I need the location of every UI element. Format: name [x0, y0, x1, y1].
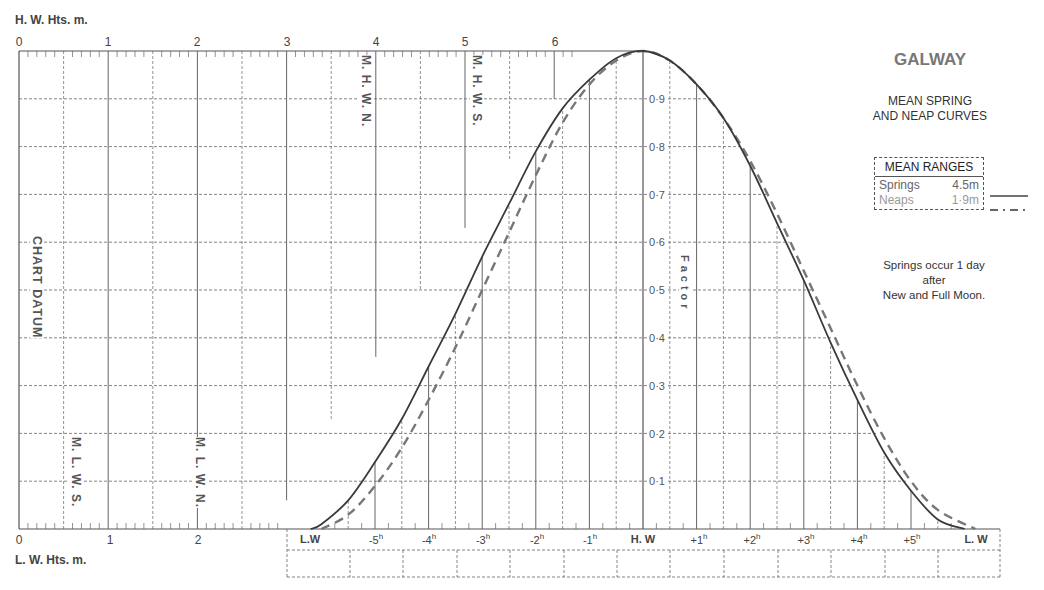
- time-label-lw-start: L.W: [300, 533, 320, 545]
- springs-note: Springs occur 1 day after New and Full M…: [849, 258, 1019, 303]
- factor-tick: 0·2: [648, 428, 666, 440]
- factor-tick: 0·5: [648, 284, 666, 296]
- mhws-label: M. H. W. S.: [470, 55, 484, 127]
- legend-line-samples: [988, 188, 1034, 218]
- time-label: +2h: [744, 532, 761, 546]
- time-label: -1h: [583, 532, 597, 546]
- legend-title: MEAN RANGES: [875, 158, 983, 177]
- time-label: +3h: [798, 532, 815, 546]
- factor-axis-label: Factor: [679, 255, 691, 313]
- time-label-hw: H. W: [631, 533, 655, 545]
- factor-tick: 0·6: [648, 236, 666, 248]
- time-label: +1h: [691, 532, 708, 546]
- note-line-2: after: [849, 273, 1019, 288]
- factor-tick: 0·8: [648, 141, 666, 153]
- legend-springs-value: 4.5m: [952, 178, 979, 193]
- mhwn-label: M. H. W. N.: [359, 55, 373, 127]
- factor-tick: 0·1: [648, 475, 666, 487]
- legend-neaps-value: 1·9m: [952, 193, 979, 208]
- factor-tick: 0·9: [648, 93, 666, 105]
- time-label: +5h: [904, 532, 921, 546]
- mlwn-label: M. L. W. N.: [193, 437, 207, 508]
- factor-tick: 0·7: [648, 189, 666, 201]
- factor-tick: 0·4: [648, 332, 666, 344]
- legend: MEAN RANGES Springs 4.5m Neaps 1·9m: [874, 157, 984, 210]
- legend-neaps: Neaps 1·9m: [875, 193, 983, 208]
- chart-datum-label: CHART DATUM: [30, 236, 44, 338]
- note-line-3: New and Full Moon.: [849, 288, 1019, 303]
- time-label-lw-end: L. W: [964, 533, 987, 545]
- chart-subtitle: MEAN SPRING AND NEAP CURVES: [830, 94, 1030, 124]
- legend-springs: Springs 4.5m: [875, 178, 983, 193]
- subtitle-line-1: MEAN SPRING: [830, 94, 1030, 109]
- note-line-1: Springs occur 1 day: [849, 258, 1019, 273]
- subtitle-line-2: AND NEAP CURVES: [830, 109, 1030, 124]
- time-label: -2h: [530, 532, 544, 546]
- time-label: -5h: [369, 532, 383, 546]
- mlws-label: M. L. W. S.: [69, 437, 83, 507]
- chart-title: GALWAY: [830, 50, 1030, 70]
- legend-springs-label: Springs: [879, 178, 920, 193]
- time-label: +4h: [851, 532, 868, 546]
- time-label: -4h: [422, 532, 436, 546]
- time-label: -3h: [476, 532, 490, 546]
- factor-tick: 0·3: [648, 380, 666, 392]
- legend-neaps-label: Neaps: [879, 193, 914, 208]
